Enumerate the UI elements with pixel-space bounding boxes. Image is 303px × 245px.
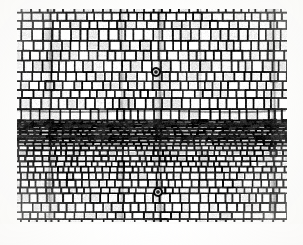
micrograph-image xyxy=(17,9,287,222)
page-canvas xyxy=(0,0,303,245)
caption-strip xyxy=(0,224,303,245)
wood-transverse-section-micrograph xyxy=(17,9,287,222)
